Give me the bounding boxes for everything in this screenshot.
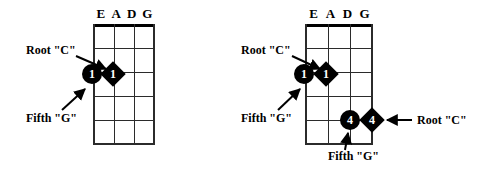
- marker-root-c-low-label: 1: [301, 68, 307, 80]
- marker-fifth-g-high-label: 4: [347, 114, 353, 126]
- string-label-g: G: [140, 7, 156, 20]
- string-label-e: E: [93, 7, 109, 20]
- marker-fifth-g-label: 1: [110, 68, 116, 80]
- marker-root-c[interactable]: 1: [82, 64, 102, 84]
- diagram-open-position: E A D G 1 1 Root "C" Fifth "G": [0, 0, 239, 171]
- string-label-e: E: [305, 7, 322, 20]
- string-label-g: G: [356, 7, 373, 20]
- fret-line-4: [93, 120, 155, 121]
- fretboard-right: [305, 24, 373, 145]
- fret-line-5: [305, 143, 373, 145]
- string-label-d: D: [339, 7, 356, 20]
- string-label-row-left: E A D G: [93, 7, 155, 20]
- nut-line: [93, 24, 155, 27]
- marker-root-c-high-label: 4: [369, 114, 375, 126]
- marker-root-c-low[interactable]: 1: [294, 64, 314, 84]
- fret-line-1: [93, 48, 155, 49]
- string-label-a: A: [322, 7, 339, 20]
- callout-root-c-high: Root "C": [417, 114, 467, 126]
- fret-line-3: [93, 96, 155, 97]
- diagram-canvas: E A D G 1 1 Root "C" Fifth "G": [0, 0, 478, 171]
- string-label-d: D: [124, 7, 140, 20]
- fret-line-1: [305, 48, 373, 49]
- callout-fifth-g-low: Fifth "G": [241, 112, 292, 124]
- nut-line: [305, 24, 373, 27]
- marker-fifth-g-low-label: 1: [323, 68, 329, 80]
- fret-line-3: [305, 96, 373, 97]
- string-label-row-right: E A D G: [305, 7, 373, 20]
- diagram-two-octave-position: E A D G 1 1 4 4 Root "C": [239, 0, 478, 171]
- fret-line-5: [93, 143, 155, 145]
- callout-root-c-low: Root "C": [241, 44, 291, 56]
- string-line-d: [134, 24, 135, 145]
- callout-root-c: Root "C": [26, 44, 76, 56]
- marker-root-c-label: 1: [89, 68, 95, 80]
- string-label-a: A: [109, 7, 125, 20]
- fretboard-left: [93, 24, 155, 145]
- board-edge-right: [153, 24, 155, 145]
- marker-fifth-g-high[interactable]: 4: [340, 110, 360, 130]
- board-edge-left: [305, 24, 307, 145]
- callout-fifth-g: Fifth "G": [26, 112, 77, 124]
- board-edge-left: [93, 24, 95, 145]
- callout-fifth-g-high: Fifth "G": [328, 150, 379, 162]
